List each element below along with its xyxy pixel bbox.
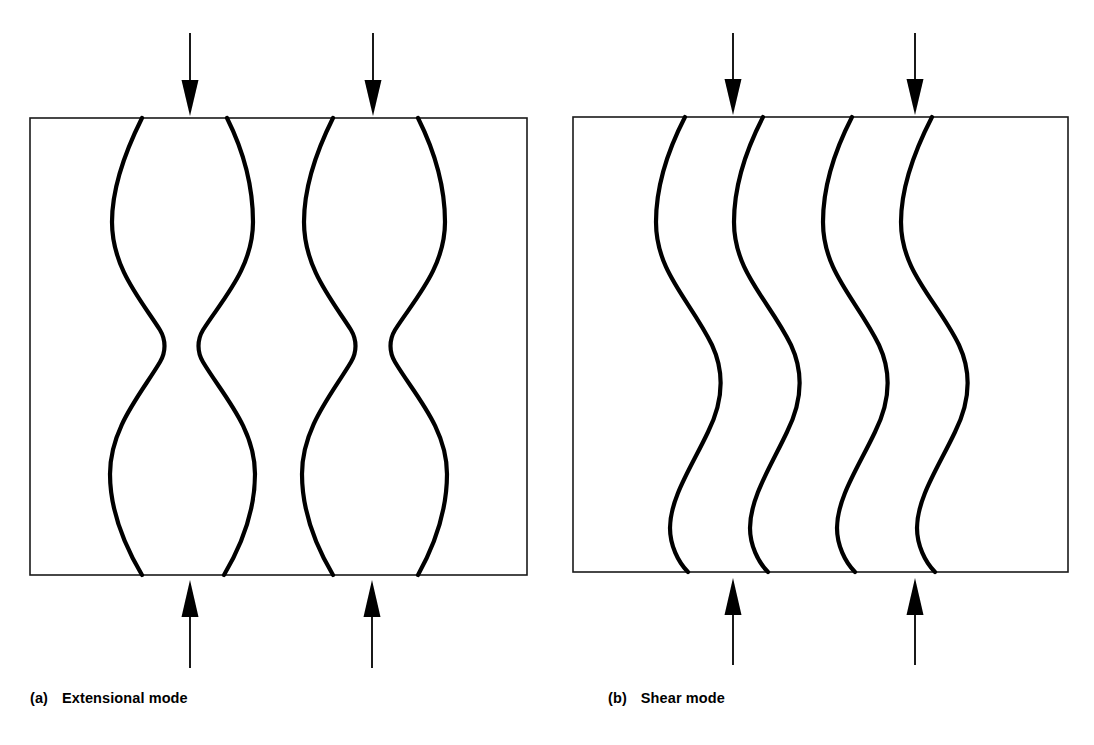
- load-arrow-up: [725, 578, 742, 665]
- shear-curve: [823, 117, 888, 572]
- panel-b-index-label: (b): [608, 690, 627, 706]
- panel-a-group: [30, 33, 527, 668]
- panel-b-specimen-box: [573, 117, 1068, 572]
- load-arrow-down: [725, 33, 742, 115]
- panel-b-top-arrows: [725, 33, 924, 115]
- extensional-curve: [391, 118, 448, 575]
- load-arrow-down: [182, 33, 199, 116]
- load-arrow-down: [907, 33, 924, 115]
- panel-b-bottom-arrows: [725, 578, 924, 665]
- shear-curve: [734, 117, 800, 572]
- panel-b-caption-text: Shear mode: [641, 690, 725, 706]
- panel-b-caption: (b)Shear mode: [608, 690, 725, 706]
- extensional-curve: [302, 118, 356, 575]
- extensional-curve: [199, 118, 256, 575]
- load-arrow-up: [907, 578, 924, 665]
- panel-a-bottom-arrows: [182, 580, 381, 668]
- panel-a-mode-curves: [110, 118, 447, 575]
- panel-a-caption-text: Extensional mode: [62, 690, 188, 706]
- mode-shapes-figure: [0, 0, 1094, 745]
- panel-b-mode-curves: [656, 117, 968, 572]
- panel-a-index-label: (a): [30, 690, 48, 706]
- shear-curve: [656, 117, 721, 572]
- load-arrow-down: [365, 33, 382, 116]
- load-arrow-up: [364, 580, 381, 668]
- panel-a-specimen-box: [30, 118, 527, 575]
- panel-b-group: [573, 33, 1068, 665]
- extensional-curve: [110, 118, 165, 575]
- panel-a-caption: (a)Extensional mode: [30, 690, 188, 706]
- figure-root: (a)Extensional mode (b)Shear mode: [0, 0, 1094, 745]
- load-arrow-up: [182, 580, 199, 668]
- panel-a-top-arrows: [182, 33, 382, 116]
- shear-curve: [901, 117, 968, 572]
